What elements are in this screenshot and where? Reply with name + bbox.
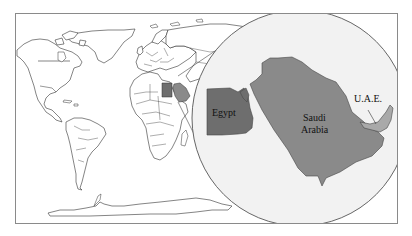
egypt-small [162, 83, 172, 97]
map-svg: Egypt Saudi Arabia U.A.E. [0, 0, 412, 236]
label-egypt: Egypt [212, 107, 236, 118]
label-arabia: Arabia [301, 124, 329, 135]
label-saudi: Saudi [303, 112, 326, 123]
map-figure: Egypt Saudi Arabia U.A.E. [0, 0, 412, 236]
label-uae: U.A.E. [354, 93, 382, 104]
